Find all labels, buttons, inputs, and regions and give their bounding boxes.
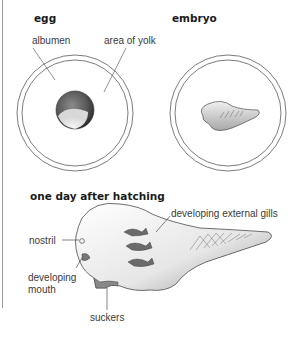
gills-label: developing external gills [171, 208, 278, 219]
yolk-icon [56, 91, 94, 129]
albumen-label: albumen [32, 35, 70, 46]
embryo-illustration [170, 55, 286, 171]
nostril-label: nostril [29, 235, 56, 246]
suckers-label: suckers [90, 312, 124, 323]
mouth-label-line1: developing [28, 272, 76, 283]
egg-heading: egg [34, 12, 56, 24]
embryo-heading: embryo [172, 12, 217, 24]
egg-illustration [17, 48, 133, 171]
hatchling-heading: one day after hatching [30, 190, 165, 202]
yolk-label: area of yolk [104, 35, 156, 46]
mouth-label-line2: mouth [28, 284, 56, 295]
tadpole-illustration [62, 203, 272, 310]
